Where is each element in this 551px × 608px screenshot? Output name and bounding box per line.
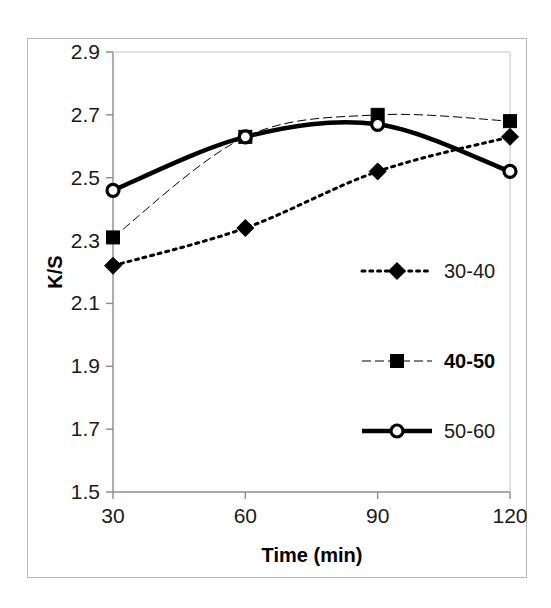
data-series-lines [113, 114, 510, 265]
marker-filled-diamond [502, 128, 519, 145]
legend-entry: 40-50 [362, 350, 495, 372]
marker-filled-diamond [389, 263, 406, 280]
x-axis-title: Time (min) [262, 544, 363, 566]
series-line [113, 122, 510, 190]
y-tick-label: 2.1 [71, 291, 100, 314]
marker-open-circle [239, 131, 251, 143]
series-markers-group [107, 108, 517, 244]
legend-label: 30-40 [444, 260, 495, 282]
marker-filled-diamond [105, 257, 122, 274]
y-axis-tick-labels: 1.51.71.92.12.32.52.72.9 [71, 40, 100, 503]
x-axis-ticks [113, 492, 510, 499]
marker-filled-diamond [237, 220, 254, 237]
x-tick-label: 30 [101, 504, 124, 527]
y-tick-label: 1.9 [71, 354, 100, 377]
y-tick-label: 2.3 [71, 229, 100, 252]
y-tick-label: 1.5 [71, 480, 100, 503]
x-tick-label: 120 [492, 504, 527, 527]
marker-open-circle [372, 118, 384, 130]
x-tick-label: 90 [366, 504, 389, 527]
chart-legend: 30-4040-5050-60 [362, 260, 495, 442]
marker-open-circle [107, 184, 119, 196]
marker-open-circle [504, 165, 516, 177]
marker-filled-square [504, 115, 517, 128]
x-axis-tick-labels: 306090120 [101, 504, 527, 527]
series-line [113, 114, 510, 237]
data-series-markers [105, 108, 519, 274]
legend-entry: 50-60 [362, 420, 495, 442]
y-tick-label: 1.7 [71, 417, 100, 440]
marker-filled-diamond [369, 163, 386, 180]
series-markers-group [107, 118, 516, 196]
marker-filled-square [391, 355, 404, 368]
y-tick-label: 2.7 [71, 103, 100, 126]
legend-label: 50-60 [444, 420, 495, 442]
y-tick-label: 2.5 [71, 166, 100, 189]
series-line [113, 137, 510, 266]
y-tick-label: 2.9 [71, 40, 100, 63]
legend-entry: 30-40 [362, 260, 495, 282]
marker-filled-square [107, 231, 120, 244]
x-tick-label: 60 [234, 504, 257, 527]
figure-container: 1.51.71.92.12.32.52.72.9 306090120 30-40… [0, 0, 551, 608]
line-chart: 1.51.71.92.12.32.52.72.9 306090120 30-40… [0, 0, 551, 608]
legend-label: 40-50 [444, 350, 495, 372]
marker-open-circle [391, 425, 403, 437]
y-axis-title: K/S [44, 255, 66, 288]
